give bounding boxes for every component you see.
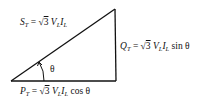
tail: sin θ — [169, 41, 189, 51]
angle-theta-label: θ — [50, 65, 55, 75]
reactive-power-label: QT = √3 VLIL sin θ — [120, 42, 190, 53]
symbol: Q — [120, 41, 127, 51]
real-power-label: PT = √3 VLIL cos θ — [20, 87, 90, 98]
voltage: V — [151, 41, 159, 51]
apparent-power-label: ST = √3 VLIL — [20, 18, 67, 29]
voltage: V — [50, 86, 58, 96]
equals-sqrt: = √ — [28, 17, 43, 27]
voltage: V — [48, 17, 56, 27]
current-sub: L — [63, 21, 67, 28]
equals-sqrt: = √ — [29, 86, 44, 96]
vertical-edge-reactive-power — [115, 9, 116, 81]
equals-sqrt: = √ — [131, 41, 146, 51]
tail: cos θ — [68, 86, 90, 96]
